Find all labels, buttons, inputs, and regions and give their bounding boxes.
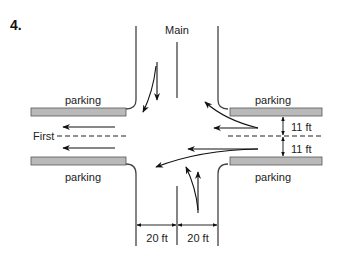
parking-label-upper-left: parking <box>65 94 101 106</box>
curb-northeast <box>218 26 228 109</box>
curb-northwest <box>126 26 136 109</box>
intersection-diagram: 4. Main parking parking parking parking … <box>0 0 342 259</box>
approach-width-left-label: 20 ft <box>146 232 167 244</box>
curb-southwest <box>126 164 136 246</box>
parking-label-lower-right: parking <box>255 171 291 183</box>
problem-number: 4. <box>10 17 22 33</box>
parking-strip-upper-right <box>230 108 322 116</box>
curb-southeast <box>218 164 228 246</box>
lane-width-upper-label: 11 ft <box>291 121 312 133</box>
northbound-left-turn-arrow-icon <box>186 167 198 210</box>
main-street-label: Main <box>165 24 189 36</box>
parking-strip-lower-left <box>31 157 126 165</box>
first-street-label: First <box>33 130 54 142</box>
approach-width-right-label: 20 ft <box>187 232 208 244</box>
parking-strip-upper-left <box>31 108 126 116</box>
lane-width-lower-label: 11 ft <box>291 143 312 155</box>
parking-label-lower-left: parking <box>65 171 101 183</box>
parking-strip-lower-right <box>230 157 322 165</box>
parking-label-upper-right: parking <box>255 94 291 106</box>
southbound-right-turn-arrow-icon <box>143 66 156 112</box>
